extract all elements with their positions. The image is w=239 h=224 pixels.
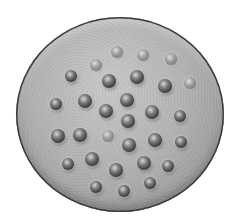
- raised-boss: [137, 49, 149, 61]
- raised-boss: [162, 160, 174, 172]
- raised-boss: [109, 163, 123, 177]
- raised-boss: [62, 158, 74, 170]
- raised-boss: [144, 177, 156, 189]
- raised-boss: [122, 138, 136, 152]
- photograph: [0, 0, 239, 224]
- raised-boss: [90, 181, 102, 193]
- raised-boss: [145, 105, 159, 119]
- raised-boss: [158, 79, 172, 93]
- raised-boss: [85, 152, 99, 166]
- raised-boss: [65, 70, 77, 82]
- raised-boss: [50, 98, 62, 110]
- raised-boss: [111, 46, 123, 58]
- raised-boss: [99, 104, 113, 118]
- raised-boss: [148, 133, 162, 147]
- raised-boss: [118, 185, 130, 197]
- raised-boss: [90, 59, 102, 71]
- raised-boss: [121, 114, 135, 128]
- raised-boss: [51, 129, 65, 143]
- raised-boss: [184, 77, 196, 89]
- raised-boss: [137, 156, 151, 170]
- raised-boss: [120, 93, 134, 107]
- raised-boss: [102, 130, 114, 142]
- raised-boss: [73, 128, 87, 142]
- raised-boss: [175, 136, 187, 148]
- raised-boss: [78, 94, 92, 108]
- raised-boss: [174, 110, 186, 122]
- raised-boss: [102, 74, 116, 88]
- raised-boss: [165, 53, 177, 65]
- raised-boss: [130, 70, 144, 84]
